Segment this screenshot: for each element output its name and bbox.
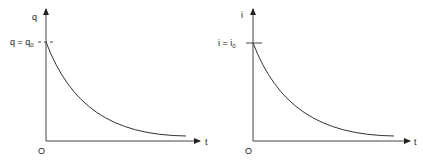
current-decay-curve xyxy=(253,43,394,136)
decay-graphs-figure: q t O q = q0 i t O i = i0 xyxy=(0,0,423,162)
t-axis-label: t xyxy=(414,137,417,147)
q-axis-label: q xyxy=(32,12,37,22)
charge-decay-graph: q t O q = q0 xyxy=(10,9,208,156)
i0-label: i = i0 xyxy=(218,38,236,49)
i-axis-label: i xyxy=(241,10,243,20)
origin-label: O xyxy=(38,146,45,156)
t-axis-label: t xyxy=(205,137,208,147)
current-decay-graph: i t O i = i0 xyxy=(218,9,417,156)
origin-label: O xyxy=(245,146,252,156)
charge-decay-curve xyxy=(46,42,186,136)
q0-label: q = q0 xyxy=(10,37,34,48)
